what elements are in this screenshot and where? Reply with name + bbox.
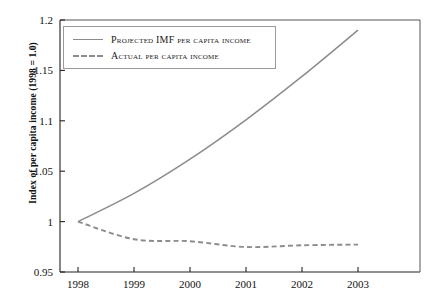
svg-text:1998: 1998 [67,278,90,290]
x-axis-tick-labels: 199819992000200120022003 [67,278,370,290]
y-axis-label: Index of per capita income (1998 = 1.0) [28,28,38,218]
svg-text:1999: 1999 [123,278,146,290]
svg-text:2000: 2000 [179,278,202,290]
legend-label-actual: Actual per capita income [111,50,219,61]
svg-text:2001: 2001 [235,278,257,290]
legend-swatch-solid-icon [73,39,103,40]
legend-item-actual: Actual per capita income [73,50,219,61]
svg-text:1: 1 [48,216,54,228]
chart-container: Index of per capita income (1998 = 1.0) … [0,0,429,302]
svg-text:2002: 2002 [291,278,313,290]
svg-text:0.95: 0.95 [34,266,54,278]
svg-text:1.2: 1.2 [39,14,53,26]
legend-item-projected: Projected IMF per capita income [73,34,251,45]
svg-text:1.1: 1.1 [39,115,53,127]
legend-swatch-dashed-icon [73,55,103,57]
chart-legend: Projected IMF per capita income Actual p… [63,26,276,69]
legend-label-projected: Projected IMF per capita income [111,34,251,45]
svg-text:2003: 2003 [347,278,370,290]
series-line-actual [78,222,358,248]
